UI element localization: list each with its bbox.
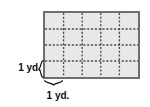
- unit-square-grid-figure: 1 yd. 1 yd.: [0, 0, 150, 107]
- grid-lines: [45, 13, 138, 77]
- left-curly-brace-icon: [38, 60, 44, 78]
- horizontal-dimension-text: 1 yd.: [47, 91, 70, 101]
- vertical-dimension-label: 1 yd.: [3, 60, 41, 76]
- horizontal-dimension-label: 1 yd.: [38, 89, 78, 103]
- bottom-curly-brace-icon: [44, 80, 64, 87]
- grid-rectangle: [43, 11, 140, 79]
